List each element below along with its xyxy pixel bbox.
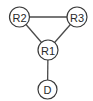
network-diagram: R2 R3 R1 D xyxy=(0,0,93,101)
node-r1: R1 xyxy=(38,40,58,60)
node-d: D xyxy=(38,80,57,99)
node-r3: R3 xyxy=(67,7,87,27)
node-r1-label: R1 xyxy=(41,45,55,57)
node-d-label: D xyxy=(44,84,52,96)
node-r2-label: R2 xyxy=(12,12,26,24)
node-r3-label: R3 xyxy=(70,12,84,24)
node-r2: R2 xyxy=(10,7,30,27)
